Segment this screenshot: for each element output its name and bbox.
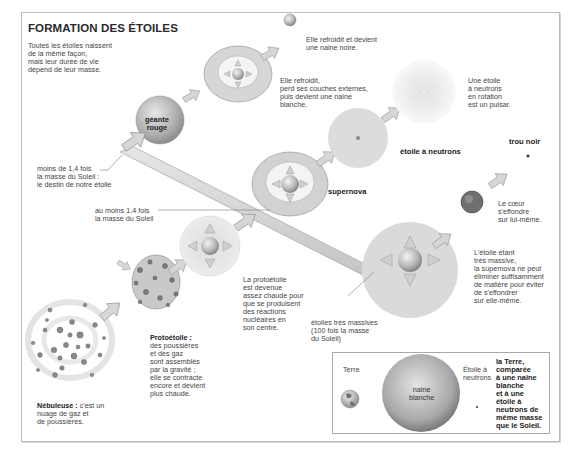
black-hole-label: trou noir [509,138,540,146]
nebula-cloud [28,302,112,378]
pulsar-text: Une étoile à neutrons en rotation est un… [468,77,511,109]
earth-globe [341,390,359,408]
neutron-star-comp-label: Étoile à neutrons [463,366,491,382]
page-title: FORMATION DES ÉTOILES [28,22,178,34]
white-dwarf-text: Elle refroidit, perd ses couches externe… [280,77,368,109]
earth-label: Terre [343,366,359,374]
hot-protostar-text: La protoétoile est devenue assez chaude … [243,276,304,332]
very-massive-text: L'étoile étant très massive, la supernov… [474,249,544,305]
black-hole [527,155,530,158]
supernova-label: supernova [328,188,366,196]
black-dwarf-text: Elle refroidit et devient une naine noir… [306,36,377,52]
medium-mass-label: au moins 1,4 fois la masse du Soleil [95,207,153,223]
comparison-caption: la Terre, comparée à une naine blanche e… [496,358,542,430]
core-collapse-text: Le cœur s'effondre sur lui-même. [498,200,542,224]
hot-protostar [180,216,240,276]
arrow-icon [486,168,511,192]
protostar-desc: des poussières et des gaz sont assemblés… [150,341,205,398]
protostar-text: Protoétoile : des poussières et des gaz … [150,334,205,398]
intro-text: Toutes les étoiles naissent de la même f… [28,42,112,74]
neutron-star [328,108,388,168]
protostar [132,255,180,309]
neutron-star-label: étoile à neutrons [400,148,461,156]
pulsar [392,60,456,124]
collapsed-core [461,191,483,213]
high-mass-label: étoiles très massives (100 fois la masse… [311,319,378,343]
arrow-icon [116,258,133,274]
neutron-star-dot [476,406,478,408]
low-mass-label: moins de 1,4 fois la masse du Soleil : l… [37,165,111,189]
size-comparison-box: Terre naine blanche Étoile à neutrons la… [332,352,550,434]
black-dwarf [284,14,296,26]
nebula-text: Nébuleuse : c'est un nuage de gaz et de … [37,402,104,426]
arrow-icon [181,85,203,105]
red-giant-label: géante rouge [145,116,169,132]
white-dwarf-label: naine blanche [409,386,434,402]
